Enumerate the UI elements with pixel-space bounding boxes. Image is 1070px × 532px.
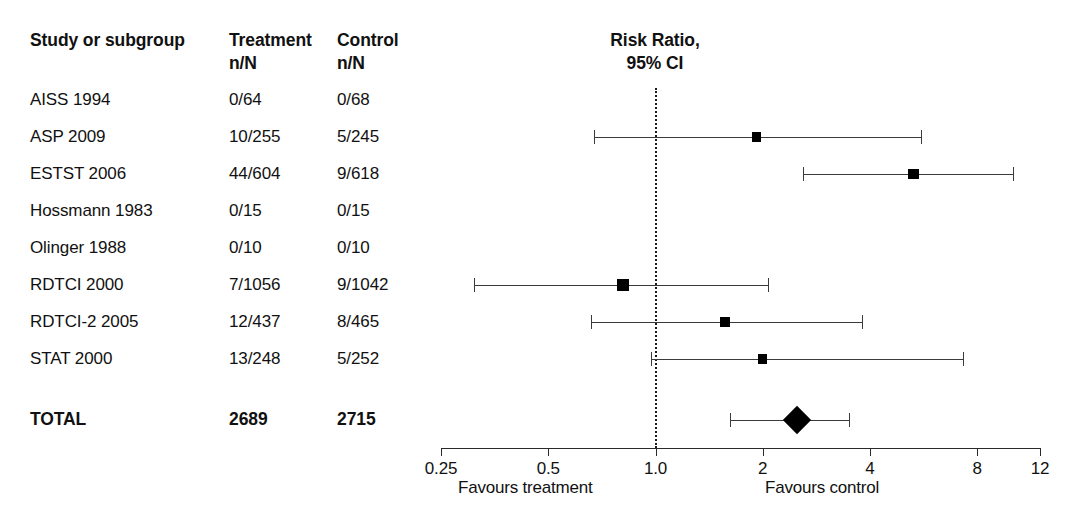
favours-control-label: Favours control <box>765 478 879 498</box>
total-confidence-interval-line <box>730 420 849 421</box>
total-confidence-interval-cap <box>730 413 731 427</box>
total-effect-diamond <box>783 406 811 434</box>
total-label: TOTAL <box>30 409 228 429</box>
forest-plot-figure: Study or subgroup Treatment n/N Control … <box>0 0 1070 532</box>
confidence-interval-cap <box>921 130 922 144</box>
plot-title: Risk Ratio, 95% CI <box>545 29 765 75</box>
confidence-interval-line <box>594 137 921 138</box>
x-axis-tick <box>763 448 764 456</box>
confidence-interval-cap <box>803 167 804 181</box>
control-n: 8/465 <box>337 312 442 332</box>
effect-estimate-marker <box>758 354 767 363</box>
study-name: RDTCI-2 2005 <box>30 312 228 332</box>
x-axis-tick-label: 4 <box>865 459 874 479</box>
x-axis-tick <box>656 448 657 456</box>
column-header-control: Control n/N <box>337 29 442 75</box>
study-name: ASP 2009 <box>30 127 228 147</box>
confidence-interval-cap <box>963 352 964 366</box>
confidence-interval-line <box>474 285 768 286</box>
null-effect-line <box>655 88 657 448</box>
control-n: 0/15 <box>337 201 442 221</box>
confidence-interval-cap <box>591 315 592 329</box>
plot-area <box>0 0 1070 532</box>
x-axis-tick-label: 0.25 <box>425 459 457 479</box>
total-control-n: 2715 <box>337 409 442 429</box>
treatment-n: 7/1056 <box>229 275 334 295</box>
treatment-n: 0/64 <box>229 90 334 110</box>
control-n: 9/618 <box>337 164 442 184</box>
effect-estimate-marker <box>720 317 730 327</box>
confidence-interval-line <box>591 322 862 323</box>
favours-treatment-label: Favours treatment <box>458 478 593 498</box>
confidence-interval-cap <box>594 130 595 144</box>
x-axis-tick <box>548 448 549 456</box>
study-name: Hossmann 1983 <box>30 201 228 221</box>
treatment-n: 12/437 <box>229 312 334 332</box>
x-axis-tick-label: 12 <box>1031 459 1050 479</box>
confidence-interval-cap <box>474 278 475 292</box>
confidence-interval-cap <box>651 352 652 366</box>
column-header-study: Study or subgroup <box>30 29 228 52</box>
x-axis-tick <box>870 448 871 456</box>
x-axis-tick <box>1040 448 1041 456</box>
confidence-interval-line <box>651 359 963 360</box>
x-axis-tick-label: 1.0 <box>644 459 667 479</box>
control-n: 5/245 <box>337 127 442 147</box>
x-axis-tick-label: 2 <box>758 459 767 479</box>
effect-estimate-marker <box>617 279 629 291</box>
total-treatment-n: 2689 <box>229 409 334 429</box>
treatment-n: 0/10 <box>229 238 334 258</box>
column-header-treatment: Treatment n/N <box>229 29 334 75</box>
x-axis-line <box>441 448 1040 449</box>
control-n: 0/10 <box>337 238 442 258</box>
treatment-n: 10/255 <box>229 127 334 147</box>
x-axis-tick <box>977 448 978 456</box>
control-n: 9/1042 <box>337 275 442 295</box>
study-name: AISS 1994 <box>30 90 228 110</box>
confidence-interval-cap <box>1013 167 1014 181</box>
effect-estimate-marker <box>752 132 761 141</box>
study-name: STAT 2000 <box>30 349 228 369</box>
control-n: 0/68 <box>337 90 442 110</box>
study-name: ESTST 2006 <box>30 164 228 184</box>
treatment-n: 44/604 <box>229 164 334 184</box>
x-axis-tick-label: 0.5 <box>537 459 560 479</box>
treatment-n: 0/15 <box>229 201 334 221</box>
study-name: RDTCI 2000 <box>30 275 228 295</box>
x-axis-tick-label: 8 <box>973 459 982 479</box>
effect-estimate-marker <box>908 169 919 180</box>
treatment-n: 13/248 <box>229 349 334 369</box>
confidence-interval-cap <box>862 315 863 329</box>
study-name: Olinger 1988 <box>30 238 228 258</box>
confidence-interval-cap <box>768 278 769 292</box>
confidence-interval-line <box>803 174 1013 175</box>
control-n: 5/252 <box>337 349 442 369</box>
total-confidence-interval-cap <box>849 413 850 427</box>
x-axis-tick <box>441 448 442 456</box>
